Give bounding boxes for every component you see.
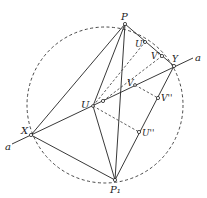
- label-P: P: [120, 11, 128, 22]
- segment-X-P1: [31, 135, 115, 180]
- label-U: U: [81, 99, 90, 110]
- segment-Y-P1: [115, 66, 174, 180]
- point-U: [92, 105, 95, 108]
- point-X: [29, 133, 32, 136]
- point-V: [134, 84, 137, 87]
- point-P: [123, 22, 126, 25]
- point-V1: [160, 54, 163, 57]
- point-V2: [156, 96, 159, 99]
- label-X: X: [20, 125, 29, 136]
- label-a-left: a: [5, 141, 11, 152]
- label-a-right: a: [195, 52, 201, 63]
- segment-P-P1: [115, 24, 125, 180]
- label-Y: Y: [172, 54, 179, 64]
- point-U2: [137, 130, 140, 133]
- label-V2: V'': [161, 93, 172, 103]
- dash-U-U1: [93, 42, 145, 106]
- point-P1: [113, 178, 116, 181]
- segment-P-X: [31, 24, 125, 135]
- point-W: [101, 99, 104, 102]
- point-markers: [29, 22, 175, 181]
- construction-figure: P P₁ X Y U V U' V' V'' U'' a a: [0, 0, 207, 198]
- segment-P-Y: [125, 24, 174, 66]
- dash-V-V2: [135, 85, 158, 98]
- point-Y: [172, 64, 175, 67]
- label-U1: U': [135, 39, 145, 49]
- diagram-canvas: P P₁ X Y U V U' V' V'' U'' a a: [0, 0, 207, 198]
- label-U2: U'': [142, 128, 155, 138]
- label-V1: V': [151, 51, 160, 61]
- segment-U-P1: [93, 106, 115, 180]
- label-P1: P₁: [109, 184, 121, 195]
